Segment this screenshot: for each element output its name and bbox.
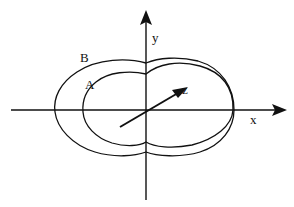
y-axis — [140, 10, 152, 200]
curve-b — [55, 58, 234, 156]
curve-b-label: B — [80, 50, 89, 65]
z-axis-arrow — [120, 87, 188, 127]
x-axis-label: x — [250, 112, 257, 127]
y-axis-label: y — [152, 30, 159, 45]
radiation-pattern-diagram: B A y z x — [0, 0, 294, 207]
curve-a-label: A — [85, 77, 95, 92]
z-axis-label: z — [182, 82, 188, 97]
